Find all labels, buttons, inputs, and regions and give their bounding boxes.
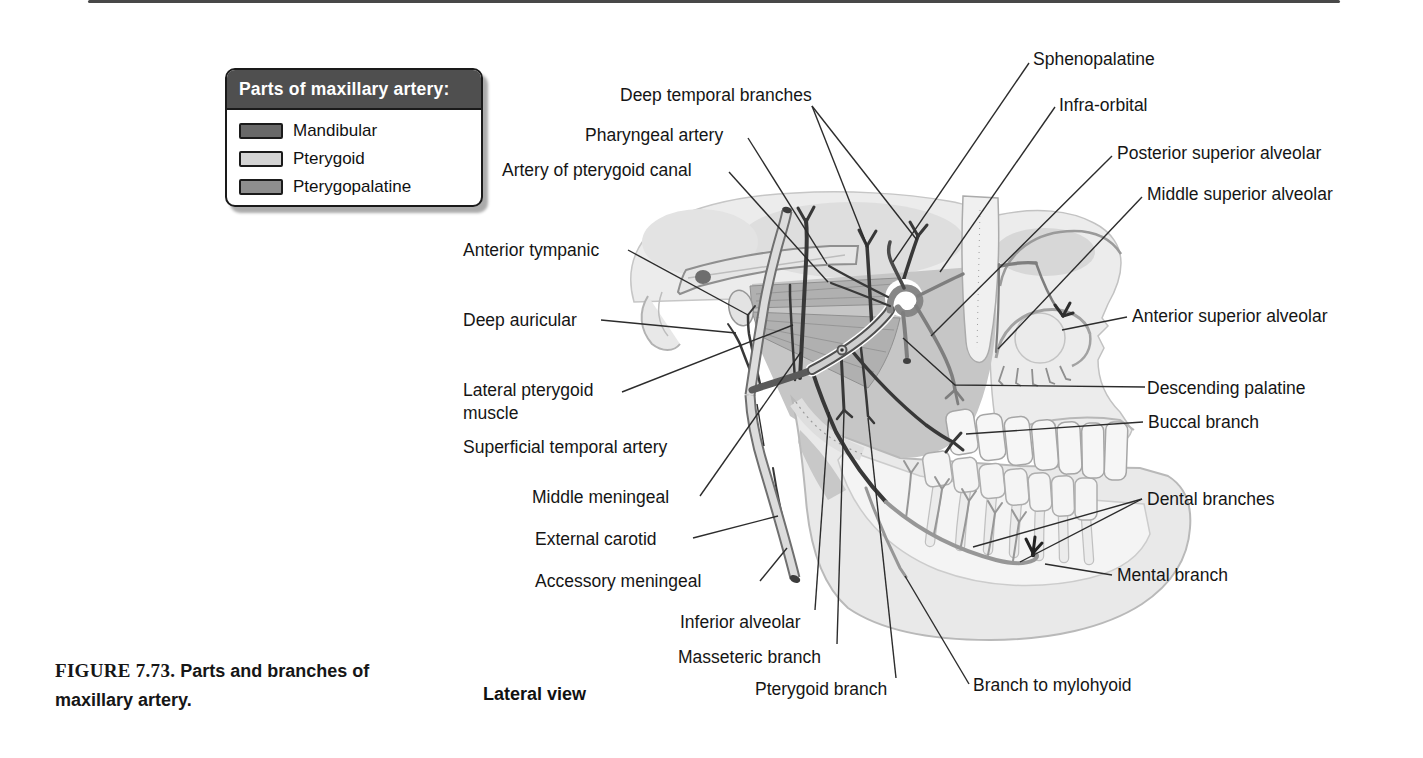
legend-item-pterygoid: Pterygoid xyxy=(239,145,471,173)
legend-box: Parts of maxillary artery: Mandibular Pt… xyxy=(225,68,483,207)
label-dental-branches: Dental branches xyxy=(1147,489,1274,509)
label-lateral-pterygoid-muscle: Lateral pterygoid muscle xyxy=(463,379,593,425)
label-middle-superior-alveolar: Middle superior alveolar xyxy=(1147,184,1333,204)
label-inferior-alveolar: Inferior alveolar xyxy=(680,612,801,632)
label-infra-orbital: Infra-orbital xyxy=(1059,95,1148,115)
figure-number: FIGURE 7.73. xyxy=(55,660,175,681)
figure-caption: FIGURE 7.73. Parts and branches of maxil… xyxy=(55,656,415,715)
label-pterygoid-branch: Pterygoid branch xyxy=(755,679,887,699)
pterygoid-color-swatch xyxy=(239,151,283,167)
label-descending-palatine: Descending palatine xyxy=(1147,378,1306,398)
mandibular-color-swatch xyxy=(239,123,283,139)
legend-body: Mandibular Pterygoid Pterygopalatine xyxy=(227,110,481,205)
pterygopalatine-color-swatch xyxy=(239,179,283,195)
label-anterior-tympanic: Anterior tympanic xyxy=(463,240,599,260)
legend-item-pterygopalatine: Pterygopalatine xyxy=(239,173,471,201)
leader-line xyxy=(760,548,787,581)
legend-item-mandibular: Mandibular xyxy=(239,117,471,145)
label-buccal-branch: Buccal branch xyxy=(1148,412,1259,432)
label-sphenopalatine: Sphenopalatine xyxy=(1033,49,1155,69)
leader-line xyxy=(693,516,778,538)
legend-item-label: Mandibular xyxy=(293,121,377,141)
textbook-figure-page: Parts of maxillary artery: Mandibular Pt… xyxy=(0,0,1423,758)
label-external-carotid: External carotid xyxy=(535,529,657,549)
label-middle-meningeal: Middle meningeal xyxy=(532,487,669,507)
label-artery-of-pterygoid-canal: Artery of pterygoid canal xyxy=(502,160,692,180)
legend-item-label: Pterygopalatine xyxy=(293,177,411,197)
label-anterior-superior-alveolar: Anterior superior alveolar xyxy=(1132,306,1328,326)
external-carotid-artery xyxy=(750,395,802,585)
label-posterior-superior-alveolar: Posterior superior alveolar xyxy=(1117,143,1321,163)
legend-title: Parts of maxillary artery: xyxy=(227,70,481,110)
ear-canal xyxy=(695,270,711,284)
view-label: Lateral view xyxy=(483,684,586,705)
label-deep-temporal-branches: Deep temporal branches xyxy=(620,85,812,105)
label-accessory-meningeal: Accessory meningeal xyxy=(535,571,701,591)
label-branch-to-mylohyoid: Branch to mylohyoid xyxy=(973,675,1132,695)
label-pharyngeal-artery: Pharyngeal artery xyxy=(585,125,723,145)
label-superficial-temporal-artery: Superficial temporal artery xyxy=(463,437,667,457)
label-masseteric-branch: Masseteric branch xyxy=(678,647,821,667)
label-mental-branch: Mental branch xyxy=(1117,565,1228,585)
label-deep-auricular: Deep auricular xyxy=(463,310,577,330)
legend-item-label: Pterygoid xyxy=(293,149,365,169)
